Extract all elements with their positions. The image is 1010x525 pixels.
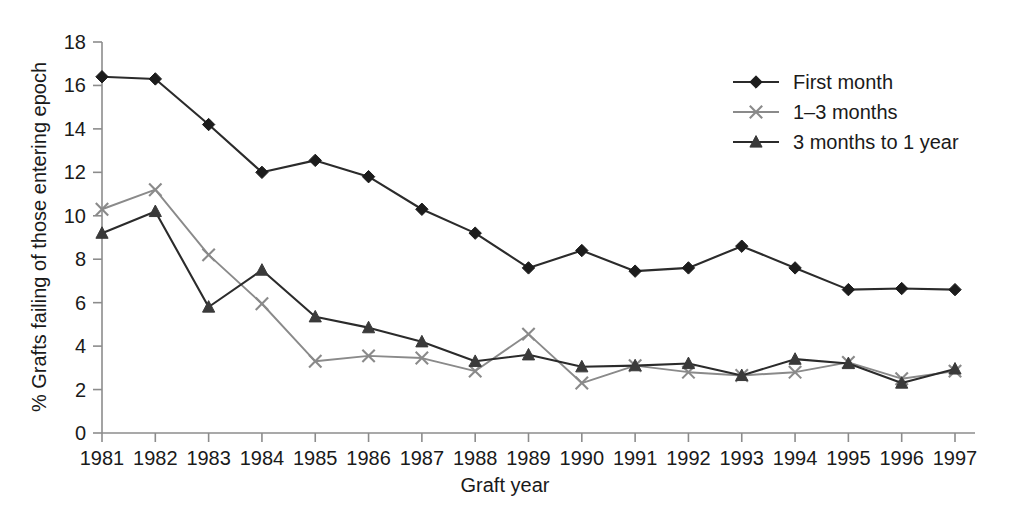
- data-point: [522, 328, 534, 340]
- data-point: [309, 154, 321, 166]
- x-tick-label: 1986: [346, 447, 391, 469]
- x-tick-label: 1989: [506, 447, 551, 469]
- y-tick-label: 2: [75, 379, 86, 401]
- series-3-months-to-1-year: [96, 205, 961, 388]
- legend-item-label: 3 months to 1 year: [793, 131, 959, 153]
- data-point: [469, 227, 481, 239]
- y-tick-label: 6: [75, 292, 86, 314]
- y-tick-label: 14: [64, 118, 86, 140]
- data-point: [256, 264, 268, 276]
- data-point: [149, 205, 161, 217]
- x-tick-label: 1981: [80, 447, 125, 469]
- x-tick-label: 1994: [773, 447, 818, 469]
- data-point: [416, 203, 428, 215]
- y-tick-label: 10: [64, 205, 86, 227]
- x-tick-label: 1995: [826, 447, 871, 469]
- data-point: [522, 262, 534, 274]
- legend-marker-diamond-icon: [750, 76, 762, 88]
- data-point: [203, 301, 215, 313]
- x-axis: 1981198219831984198519861987198819891990…: [80, 433, 978, 469]
- data-point: [629, 265, 641, 277]
- x-tick-label: 1985: [293, 447, 338, 469]
- x-tick-label: 1997: [933, 447, 978, 469]
- chart-legend: First month1–3 months3 months to 1 year: [733, 71, 959, 153]
- data-point: [789, 262, 801, 274]
- data-point: [682, 262, 694, 274]
- data-point: [949, 283, 961, 295]
- data-point: [895, 282, 907, 294]
- x-tick-label: 1983: [186, 447, 231, 469]
- legend-item: 3 months to 1 year: [733, 131, 959, 153]
- legend-item: First month: [733, 71, 893, 93]
- legend-item: 1–3 months: [733, 101, 898, 123]
- x-tick-label: 1992: [666, 447, 711, 469]
- x-tick-label: 1990: [560, 447, 605, 469]
- y-tick-label: 0: [75, 422, 86, 444]
- x-tick-label: 1991: [613, 447, 658, 469]
- data-point: [576, 244, 588, 256]
- legend-item-label: 1–3 months: [793, 101, 898, 123]
- y-tick-label: 8: [75, 248, 86, 270]
- y-tick-label: 12: [64, 161, 86, 183]
- data-point: [842, 283, 854, 295]
- data-point: [362, 170, 374, 182]
- y-tick-label: 16: [64, 74, 86, 96]
- data-point: [256, 298, 268, 310]
- x-tick-label: 1993: [720, 447, 765, 469]
- x-tick-label: 1988: [453, 447, 498, 469]
- data-point: [736, 240, 748, 252]
- x-tick-label: 1984: [240, 447, 285, 469]
- x-axis-title: Graft year: [461, 474, 550, 496]
- data-point: [576, 377, 588, 389]
- x-tick-label: 1982: [133, 447, 178, 469]
- data-point: [202, 249, 214, 261]
- chart-figure: 024681012141618 198119821983198419851986…: [0, 0, 1010, 525]
- x-tick-label: 1996: [879, 447, 924, 469]
- x-tick-label: 1987: [400, 447, 445, 469]
- y-tick-label: 4: [75, 335, 86, 357]
- legend-item-label: First month: [793, 71, 893, 93]
- data-point: [522, 348, 534, 360]
- data-point: [149, 184, 161, 196]
- y-axis-title: % Grafts failing of those entering epoch: [28, 62, 50, 412]
- y-tick-label: 18: [64, 31, 86, 53]
- line-chart: 024681012141618 198119821983198419851986…: [0, 0, 1010, 525]
- data-point: [96, 71, 108, 83]
